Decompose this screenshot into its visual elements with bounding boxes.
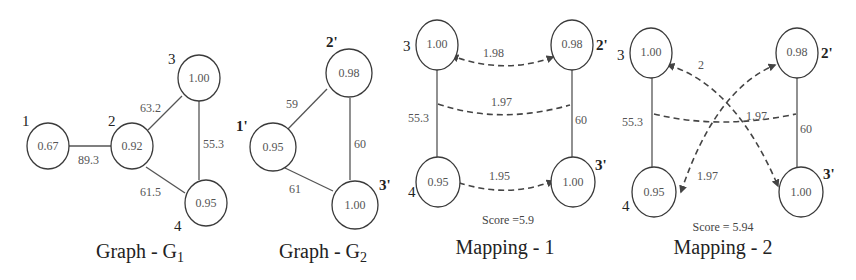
node-3-prime: 1.00 3'	[332, 177, 391, 229]
svg-text:1.00: 1.00	[189, 71, 210, 85]
svg-text:0.95: 0.95	[196, 196, 217, 210]
svg-text:4: 4	[622, 198, 630, 214]
svg-text:0.98: 0.98	[562, 37, 583, 51]
edge-label-3-4: 55.3	[622, 115, 643, 129]
edge-label-1-2: 89.3	[78, 153, 99, 167]
node-2-prime: 0.98 2'	[776, 28, 833, 78]
svg-text:2': 2'	[821, 45, 833, 61]
svg-text:3: 3	[617, 47, 625, 63]
svg-text:2': 2'	[596, 37, 608, 53]
node-4: 0.95 4	[408, 157, 460, 207]
caption-mapping-1: Mapping - 1	[456, 236, 555, 259]
mapping-score: Score =5.9	[482, 213, 534, 227]
node-3: 1.00 3	[168, 51, 220, 101]
svg-text:0.98: 0.98	[787, 45, 808, 59]
svg-text:3': 3'	[595, 157, 607, 173]
node-2-prime: 0.98 2'	[326, 34, 372, 97]
caption-graph-g1: Graph - G1	[96, 240, 184, 265]
panel-graph-g1: 89.3 63.2 55.3 61.5 0.67 1 0.92 2 1.00 3…	[22, 51, 227, 265]
panel-mapping-1: 55.3 60 1.98 1.97 1.95 1.00 3 0.95 4 0.9…	[403, 20, 608, 259]
svg-text:3': 3'	[823, 166, 835, 182]
edge-label-1p-3p: 61	[289, 182, 301, 196]
svg-text:3: 3	[168, 51, 176, 67]
edge-label-2p-3p: 60	[575, 113, 587, 127]
svg-text:4: 4	[174, 218, 182, 234]
caption-mapping-2: Mapping - 2	[674, 236, 773, 259]
mapping-label-edge: 1.97	[746, 109, 767, 123]
node-4: 0.95 4	[174, 180, 227, 234]
edge-label-2-4: 61.5	[140, 185, 161, 199]
mapping-score: Score = 5.94	[692, 220, 753, 234]
edge-label-3-4: 55.3	[203, 137, 224, 151]
svg-text:2': 2'	[326, 34, 338, 50]
node-3: 1.00 3	[617, 28, 672, 78]
edge-label-2p-3p: 60	[354, 137, 366, 151]
mapping-arrow-4-2p	[681, 65, 775, 192]
node-2-prime: 0.98 2'	[551, 20, 608, 70]
node-3-prime: 1.00 3'	[779, 166, 835, 217]
svg-text:0.67: 0.67	[38, 139, 59, 153]
node-4: 0.95 4	[622, 167, 676, 217]
edge-label-2p-3p: 60	[800, 122, 812, 136]
caption-graph-g2: Graph - G2	[279, 240, 367, 265]
svg-text:0.95: 0.95	[644, 185, 665, 199]
edge-label-1p-2p: 59	[286, 97, 298, 111]
svg-text:1.00: 1.00	[641, 45, 662, 59]
svg-text:0.95: 0.95	[428, 175, 449, 189]
svg-text:0.92: 0.92	[122, 139, 143, 153]
mapping-label-4-2p: 1.97	[697, 169, 718, 183]
node-3-prime: 1.00 3'	[551, 157, 607, 207]
svg-text:1: 1	[22, 113, 30, 129]
node-1-prime: 0.95 1'	[236, 118, 296, 171]
svg-text:3': 3'	[379, 177, 391, 193]
svg-text:4: 4	[408, 184, 416, 200]
svg-text:3: 3	[403, 38, 411, 54]
mapping-label-edge: 1.97	[491, 95, 512, 109]
mapping-label-4-3p: 1.95	[489, 169, 510, 183]
svg-text:1': 1'	[236, 118, 248, 134]
node-3: 1.00 3	[403, 20, 458, 70]
svg-text:0.95: 0.95	[263, 140, 284, 154]
mapping-label-3-2p: 1.98	[483, 46, 504, 60]
panel-graph-g2: 59 60 61 0.95 1' 0.98 2' 1.00 3' Graph -…	[236, 34, 391, 265]
svg-text:1.00: 1.00	[427, 37, 448, 51]
node-2: 0.92 2	[108, 113, 153, 169]
mapping-arrow-3-3p	[668, 65, 778, 186]
svg-text:1.00: 1.00	[563, 175, 584, 189]
edge-label-2-3: 63.2	[140, 101, 161, 115]
edge-label-3-4: 55.3	[408, 111, 429, 125]
svg-text:2: 2	[108, 113, 116, 129]
svg-text:1.00: 1.00	[345, 198, 366, 212]
svg-text:0.98: 0.98	[339, 66, 360, 80]
svg-text:1.00: 1.00	[791, 185, 812, 199]
panel-mapping-2: 55.3 60 2 1.97 1.97 1.00 3 0.95 4 0.98 2…	[617, 28, 835, 259]
mapping-label-3-3p: 2	[698, 58, 704, 72]
graph-matching-figure: 89.3 63.2 55.3 61.5 0.67 1 0.92 2 1.00 3…	[0, 0, 856, 280]
mapping-arrow-edge	[654, 114, 796, 122]
node-1: 0.67 1	[22, 113, 69, 169]
